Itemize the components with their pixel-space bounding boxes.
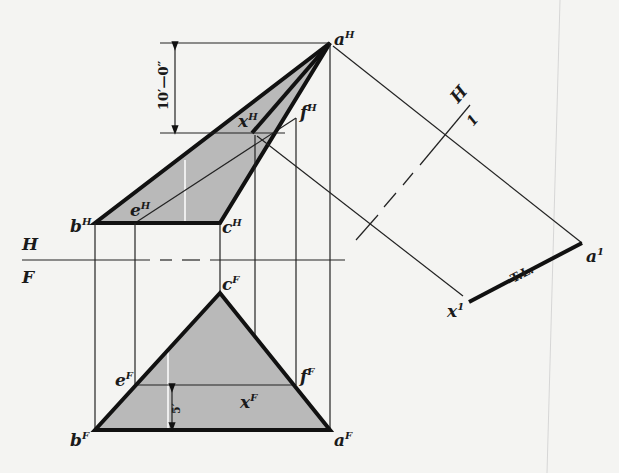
front-view: 5′ xyxy=(95,293,330,430)
front-view-face xyxy=(95,293,330,430)
label-cF: cF xyxy=(222,274,240,294)
fold-label-h1-lower: 1 xyxy=(463,111,482,129)
page-crease xyxy=(547,0,560,473)
label-cH: cH xyxy=(222,217,242,237)
label-aH: aH xyxy=(334,29,355,49)
dimension-label-10ft: 10′—0″ xyxy=(156,60,171,110)
line-ax-top xyxy=(252,43,330,133)
label-aF: aF xyxy=(334,430,353,450)
label-bH: bH xyxy=(70,216,92,236)
label-a1: a1 xyxy=(586,246,604,266)
aux-view: T.L. xyxy=(469,243,582,302)
label-x1: x1 xyxy=(446,301,464,321)
true-length-label: T.L. xyxy=(508,262,536,285)
label-bF: bF xyxy=(70,430,90,450)
fold-label-f: F xyxy=(21,267,36,287)
label-fH: fH xyxy=(299,102,317,122)
fold-label-h1-upper: H xyxy=(445,81,472,108)
label-eF: eF xyxy=(115,370,134,390)
dimension-label-5ft: 5′ xyxy=(170,403,183,414)
fold-label-h: H xyxy=(21,234,39,254)
folding-line-h1: H 1 xyxy=(356,81,482,240)
drawing-canvas: 10′—0″ H F H 1 5′ xyxy=(0,0,619,473)
label-fF: fF xyxy=(299,366,315,386)
